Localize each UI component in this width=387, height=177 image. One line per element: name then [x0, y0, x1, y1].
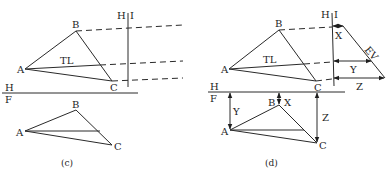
figure-d: B A C TL H I EV X Y Z H F B A: [208, 9, 385, 168]
d-fold-hf-h: H: [210, 81, 219, 92]
c-top-label-c: C: [110, 82, 118, 93]
c-projector-c: [112, 78, 183, 81]
c-front-view-triangle: [25, 110, 112, 145]
c-projector-b: [76, 25, 183, 31]
d-fold-line-hi: [332, 13, 334, 86]
d-projector-b: [279, 27, 332, 30]
c-projector-tl: [100, 61, 183, 65]
c-fold-hf-h: H: [5, 82, 14, 93]
d-projector-tl: [304, 62, 332, 64]
d-fold-hf-f: F: [210, 93, 217, 104]
d-projector-c: [316, 79, 332, 81]
d-front-y-label: Y: [232, 106, 240, 117]
d-front-label-c: C: [319, 140, 327, 151]
d-aux-z-label: Z: [356, 81, 363, 92]
d-top-label-a: A: [220, 64, 229, 75]
d-front-x-label: X: [284, 97, 292, 108]
c-front-label-c: C: [114, 141, 122, 152]
c-caption: (c): [61, 158, 73, 168]
c-front-label-a: A: [15, 127, 24, 138]
d-top-label-b: B: [275, 18, 282, 29]
d-front-view-triangle: [230, 105, 317, 143]
d-caption: (d): [265, 158, 278, 168]
c-front-label-b: B: [72, 99, 79, 110]
c-tl-label: TL: [60, 55, 74, 66]
d-aux-y-label: Y: [349, 64, 357, 75]
c-top-label-a: A: [16, 64, 25, 75]
c-top-label-b: B: [72, 19, 79, 30]
d-ev-label: EV: [362, 44, 380, 63]
d-fold-hi-h: H: [321, 9, 330, 20]
d-tl-label: TL: [263, 54, 277, 65]
d-front-label-b: B: [268, 97, 275, 108]
d-front-label-a: A: [220, 126, 229, 137]
c-fold-hf-f: F: [5, 94, 12, 105]
figure-c: B A C TL H I H F B A C (c): [2, 10, 183, 168]
d-fold-hi-i: I: [334, 9, 338, 20]
d-aux-x-label: X: [335, 30, 343, 41]
c-fold-hi-h: H: [117, 10, 126, 21]
c-fold-hi-i: I: [130, 10, 134, 21]
descriptive-geometry-figure: B A C TL H I H F B A C (c): [0, 0, 387, 177]
d-front-z-label: Z: [322, 112, 329, 123]
d-top-label-c: C: [314, 82, 322, 93]
